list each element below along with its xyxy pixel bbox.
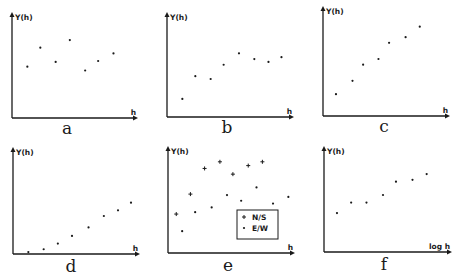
x-axis-label: h <box>288 243 293 252</box>
panel-letter: c <box>379 116 389 136</box>
y-axis-label: Y(h) <box>325 7 344 16</box>
data-point <box>335 93 337 95</box>
data-point <box>382 194 384 196</box>
y-axis-arrow-icon <box>165 12 170 17</box>
point-ns <box>246 164 250 168</box>
x-axis-label: h <box>287 107 292 116</box>
panel-letter: b <box>222 117 233 137</box>
point-ew <box>287 196 289 198</box>
data-point <box>350 202 352 204</box>
legend-entry: E/W <box>252 224 269 233</box>
x-axis-label: h <box>443 106 448 115</box>
data-point <box>336 212 338 214</box>
y-axis-arrow-icon <box>322 146 327 151</box>
panel-a: Y(h)ha <box>10 12 139 138</box>
data-point <box>194 75 196 77</box>
data-point <box>97 60 99 62</box>
data-point <box>377 58 379 60</box>
panel-letter: a <box>62 118 72 138</box>
data-point <box>87 226 89 228</box>
data-point <box>351 80 353 82</box>
y-axis-label: Y(h) <box>326 147 345 156</box>
data-point <box>395 181 397 183</box>
data-point <box>419 26 421 28</box>
point-ew <box>194 211 196 213</box>
point-ns <box>231 172 235 176</box>
panel-letter: f <box>381 254 389 274</box>
data-point <box>280 56 282 58</box>
y-axis-label: Y(h) <box>14 13 33 22</box>
data-point <box>103 215 105 217</box>
x-axis-label: h <box>133 244 138 253</box>
data-point <box>405 36 407 38</box>
point-ew <box>211 206 213 208</box>
data-point <box>426 173 428 175</box>
data-point <box>253 58 255 60</box>
data-point <box>112 52 114 54</box>
panel-e: Y(h)heN/SE/W <box>166 146 296 275</box>
y-axis-arrow-icon <box>166 146 171 151</box>
point-ew <box>226 194 228 196</box>
y-axis-label: Y(h) <box>15 148 34 157</box>
x-axis-label: h <box>131 108 136 117</box>
data-point <box>26 66 28 68</box>
panel-c: Y(h)hc <box>321 6 451 136</box>
point-ns <box>174 212 178 216</box>
data-point <box>365 202 367 204</box>
y-axis-arrow-icon <box>11 147 16 152</box>
y-axis-label: Y(h) <box>169 13 188 22</box>
y-axis-arrow-icon <box>10 12 15 17</box>
data-point <box>57 242 59 244</box>
data-point <box>267 61 269 63</box>
data-point <box>55 61 57 63</box>
data-point <box>223 64 225 66</box>
data-point <box>130 202 132 204</box>
x-axis-label: log h <box>429 242 450 251</box>
point-ew <box>272 203 274 205</box>
data-point <box>238 52 240 54</box>
point-ns <box>203 166 207 170</box>
panel-letter: e <box>223 255 233 275</box>
point-ew <box>255 186 257 188</box>
data-point <box>210 78 212 80</box>
panel-f: Y(h)log hf <box>322 146 453 274</box>
data-point <box>69 39 71 41</box>
figure-six-panel-variograms: Y(h)haY(h)hbY(h)hcY(h)hdY(h)heN/SE/WY(h)… <box>0 0 455 276</box>
data-point <box>84 69 86 71</box>
data-point <box>181 98 183 100</box>
data-point <box>39 47 41 49</box>
point-ew <box>181 230 183 232</box>
point-ew <box>240 200 242 202</box>
data-point <box>71 235 73 237</box>
data-point <box>43 248 45 250</box>
point-ns <box>218 160 222 164</box>
y-axis-label: Y(h) <box>170 147 189 156</box>
legend: N/SE/W <box>237 210 278 239</box>
data-point <box>27 251 29 253</box>
panel-b: Y(h)hb <box>165 12 295 137</box>
data-point <box>388 42 390 44</box>
y-axis-arrow-icon <box>321 6 326 11</box>
data-point <box>362 64 364 66</box>
data-point <box>117 209 119 211</box>
legend-dot-icon <box>243 227 245 229</box>
panel-letter: d <box>66 256 77 276</box>
panel-d: Y(h)hd <box>11 147 141 276</box>
legend-entry: N/S <box>252 213 266 222</box>
point-ns <box>260 160 264 164</box>
point-ns <box>188 192 192 196</box>
data-point <box>411 179 413 181</box>
